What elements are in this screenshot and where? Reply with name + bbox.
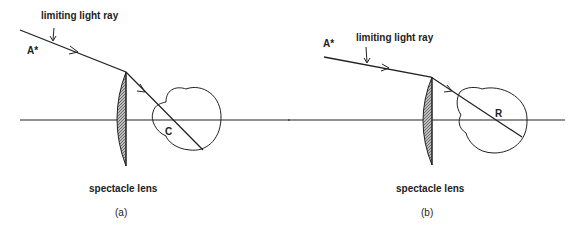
limiting-light-ray xyxy=(20,30,203,150)
point-label: A* xyxy=(323,38,334,49)
label-pointer-arrow xyxy=(50,28,56,41)
panel-a: limiting light ray A* C spectacle lens (… xyxy=(20,10,290,218)
ray-label: limiting light ray xyxy=(356,32,434,43)
spectacle-lens xyxy=(423,77,432,165)
ray-label: limiting light ray xyxy=(41,10,119,21)
lens-label: spectacle lens xyxy=(396,183,465,194)
label-pointer-arrow xyxy=(364,47,370,63)
diagram-canvas: limiting light ray A* C spectacle lens (… xyxy=(0,0,578,235)
panel-caption: (b) xyxy=(421,207,433,218)
spectacle-lens xyxy=(117,72,126,166)
rotation-center-label: R xyxy=(495,108,503,119)
point-label: A* xyxy=(27,45,38,56)
eye-outline xyxy=(152,87,221,150)
lens-label: spectacle lens xyxy=(89,183,158,194)
panel-b: A* limiting light ray R spectacle lens (… xyxy=(288,32,565,218)
panel-caption: (a) xyxy=(115,207,127,218)
rotation-center-label: C xyxy=(165,126,172,137)
